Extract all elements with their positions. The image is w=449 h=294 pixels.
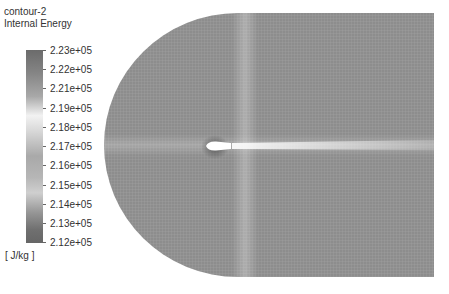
contour-plot [0,0,449,294]
flow-domain [100,10,440,280]
airfoil-icon [206,141,231,150]
